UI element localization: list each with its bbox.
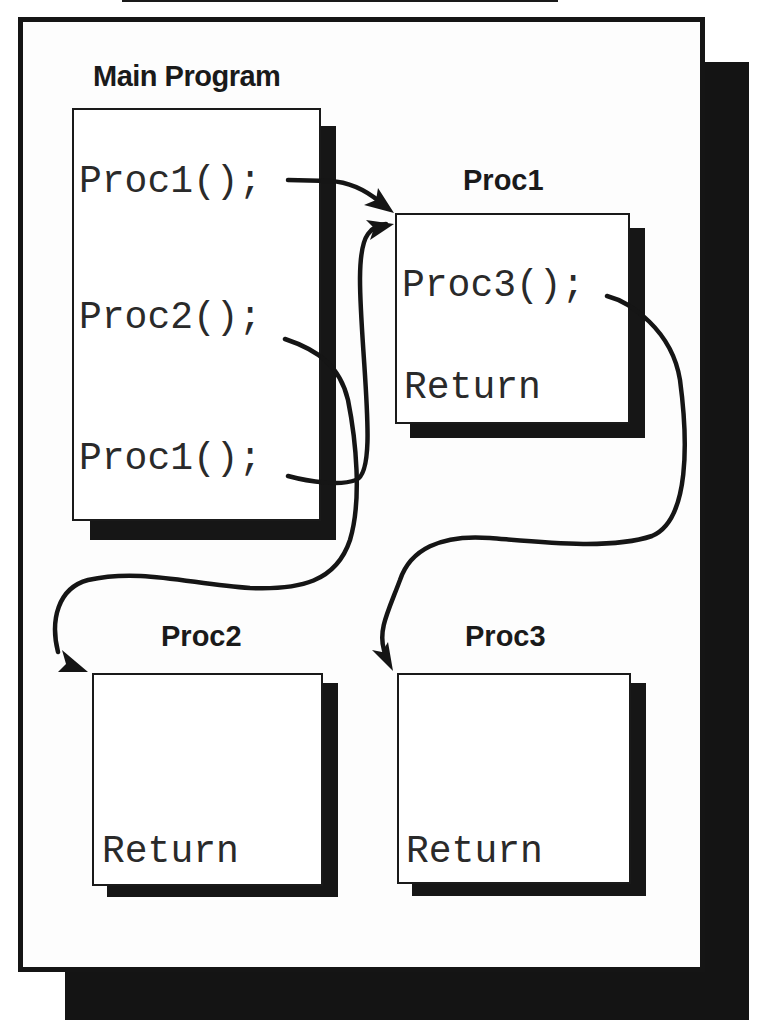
frame-shadow-right [703, 62, 749, 1020]
top-rule [122, 0, 558, 2]
proc2-return: Return [102, 830, 239, 873]
main-call-proc1-second: Proc1(); [79, 437, 261, 480]
proc1-title: Proc1 [463, 164, 544, 197]
main-program-title: Main Program [93, 60, 280, 93]
proc3-title: Proc3 [465, 620, 546, 653]
proc1-call-proc3: Proc3(); [402, 264, 584, 307]
proc2-title: Proc2 [161, 620, 242, 653]
main-call-proc2: Proc2(); [79, 296, 261, 339]
main-call-proc1: Proc1(); [79, 160, 261, 203]
proc3-return: Return [406, 830, 543, 873]
proc1-return: Return [404, 366, 541, 409]
